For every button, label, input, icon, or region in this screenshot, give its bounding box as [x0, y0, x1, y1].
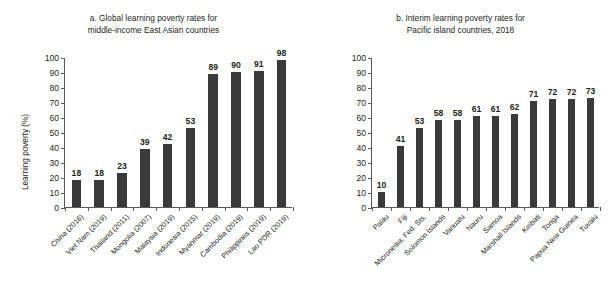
bar-value-label-b-6: 61 — [491, 105, 501, 114]
panel-b-title: b. Interim learning poverty rates for Pa… — [307, 13, 614, 36]
bar-value-label-a-1: 18 — [94, 169, 104, 178]
y-tick-b-90 — [368, 73, 372, 74]
y-tick-label-b-60: 60 — [356, 114, 366, 123]
y-tick-b-40 — [368, 148, 372, 149]
bar-value-label-b-3: 58 — [434, 109, 444, 118]
bar-value-label-a-0: 18 — [72, 169, 82, 178]
y-tick-a-10 — [61, 193, 65, 194]
bar-value-label-b-11: 73 — [586, 87, 596, 96]
y-tick-a-80 — [61, 88, 65, 89]
x-tick-a-6 — [202, 207, 203, 211]
y-tick-label-a-10: 10 — [49, 189, 59, 198]
bar-b-9[interactable]: 72 — [549, 99, 557, 207]
bar-b-6[interactable]: 61 — [492, 116, 500, 208]
y-tick-b-80 — [368, 88, 372, 89]
bar-a-2[interactable]: 23 — [117, 173, 127, 208]
bar-value-label-b-7: 62 — [510, 103, 520, 112]
y-tick-a-50 — [61, 133, 65, 134]
bar-a-8[interactable]: 91 — [254, 71, 264, 208]
bar-value-label-a-8: 91 — [254, 60, 264, 69]
y-tick-b-60 — [368, 118, 372, 119]
bar-a-7[interactable]: 90 — [231, 72, 241, 207]
x-tick-a-1 — [88, 207, 89, 211]
y-tick-label-a-90: 90 — [49, 69, 59, 78]
y-tick-b-70 — [368, 103, 372, 104]
y-tick-a-100 — [61, 58, 65, 59]
bar-value-label-b-4: 58 — [453, 109, 463, 118]
bar-b-10[interactable]: 72 — [568, 99, 576, 207]
y-tick-label-b-70: 70 — [356, 99, 366, 108]
y-tick-label-a-30: 30 — [49, 159, 59, 168]
bar-b-5[interactable]: 61 — [473, 116, 481, 208]
y-tick-label-b-100: 100 — [352, 54, 366, 63]
x-tick-a-7 — [225, 207, 226, 211]
bar-a-3[interactable]: 39 — [140, 149, 150, 208]
bar-b-7[interactable]: 62 — [511, 114, 519, 207]
y-tick-label-b-50: 50 — [356, 129, 366, 138]
bar-b-2[interactable]: 53 — [416, 128, 424, 208]
bar-b-3[interactable]: 58 — [435, 120, 443, 207]
bar-a-0[interactable]: 18 — [72, 180, 82, 207]
y-tick-a-30 — [61, 163, 65, 164]
x-tick-a-9 — [270, 207, 271, 211]
panel-a-title: a. Global learning poverty rates for mid… — [0, 13, 307, 36]
x-tick-b-10 — [562, 207, 563, 211]
x-tick-a-3 — [133, 207, 134, 211]
bar-b-11[interactable]: 73 — [587, 98, 595, 208]
x-tick-b-1 — [391, 207, 392, 211]
y-tick-label-a-40: 40 — [49, 144, 59, 153]
x-tick-b-12 — [600, 207, 601, 211]
panel-a-y-axis-title: Learning poverty (%) — [22, 114, 30, 190]
x-tick-b-5 — [467, 207, 468, 211]
y-tick-a-40 — [61, 148, 65, 149]
bar-a-9[interactable]: 98 — [277, 60, 287, 207]
x-tick-b-3 — [429, 207, 430, 211]
bar-value-label-a-5: 53 — [186, 117, 196, 126]
panel-b-title-line1: b. Interim learning poverty rates for — [396, 13, 525, 23]
y-tick-b-100 — [368, 58, 372, 59]
x-tick-a-5 — [179, 207, 180, 211]
bar-b-8[interactable]: 71 — [530, 101, 538, 208]
x-tick-a-4 — [156, 207, 157, 211]
x-tick-a-0 — [65, 207, 66, 211]
x-tick-b-9 — [543, 207, 544, 211]
y-tick-label-a-80: 80 — [49, 84, 59, 93]
bar-value-label-b-1: 41 — [396, 135, 406, 144]
bar-value-label-b-5: 61 — [472, 105, 482, 114]
x-tick-b-0 — [372, 207, 373, 211]
bar-value-label-a-3: 39 — [140, 138, 150, 147]
y-tick-a-70 — [61, 103, 65, 104]
panel-a-title-line2: middle-income East Asian countries — [0, 25, 307, 37]
bar-value-label-a-9: 98 — [277, 49, 287, 58]
bar-value-label-a-2: 23 — [117, 162, 127, 171]
x-tick-a-2 — [111, 207, 112, 211]
y-tick-label-b-20: 20 — [356, 174, 366, 183]
y-tick-b-50 — [368, 133, 372, 134]
bar-value-label-b-8: 71 — [529, 90, 539, 99]
bar-a-1[interactable]: 18 — [94, 180, 104, 207]
y-tick-label-b-90: 90 — [356, 69, 366, 78]
x-tick-b-2 — [410, 207, 411, 211]
bar-b-0[interactable]: 10 — [378, 192, 386, 207]
bar-b-1[interactable]: 41 — [397, 146, 405, 208]
x-tick-b-4 — [448, 207, 449, 211]
x-tick-a-8 — [247, 207, 248, 211]
panel-a-plot-area: 010203040506070809010018China (2016)18Vi… — [64, 58, 292, 208]
bar-a-4[interactable]: 42 — [163, 144, 173, 207]
x-tick-b-7 — [505, 207, 506, 211]
bar-a-5[interactable]: 53 — [186, 128, 196, 208]
bar-b-4[interactable]: 58 — [454, 120, 462, 207]
y-tick-a-90 — [61, 73, 65, 74]
panel-b-plot-area: 010203040506070809010010Palau41Fiji53Mic… — [371, 58, 599, 208]
y-tick-label-a-60: 60 — [49, 114, 59, 123]
y-tick-a-60 — [61, 118, 65, 119]
y-tick-b-10 — [368, 193, 372, 194]
panel-a-title-line1: a. Global learning poverty rates for — [90, 13, 217, 23]
bar-value-label-a-6: 89 — [208, 63, 218, 72]
panel-b-title-line2: Pacific island countries, 2018 — [307, 25, 614, 37]
y-tick-b-30 — [368, 163, 372, 164]
bar-a-6[interactable]: 89 — [208, 74, 218, 208]
y-tick-label-b-80: 80 — [356, 84, 366, 93]
x-tick-b-11 — [581, 207, 582, 211]
bar-value-label-b-2: 53 — [415, 117, 425, 126]
